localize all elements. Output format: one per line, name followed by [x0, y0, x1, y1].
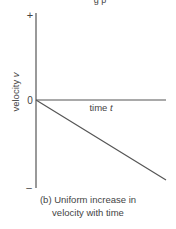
x-axis-label-word: time	[89, 102, 107, 113]
y-tick-minus: –	[26, 182, 32, 193]
svg-text:velocity v: velocity v	[10, 71, 21, 111]
x-axis-label-symbol: t	[110, 102, 113, 113]
x-axis-label: time t	[89, 102, 113, 113]
caption-line-1: (b) Uniform increase in	[0, 193, 176, 206]
y-axis-label-symbol: v	[10, 71, 21, 77]
y-axis-label-word: velocity	[10, 80, 21, 112]
cut-off-heading: g p	[94, 0, 107, 5]
caption-line-2: velocity with time	[0, 206, 176, 219]
y-tick-plus: +	[27, 9, 33, 21]
y-tick-zero: 0	[27, 95, 33, 106]
y-axis-label: velocity v	[10, 71, 21, 111]
